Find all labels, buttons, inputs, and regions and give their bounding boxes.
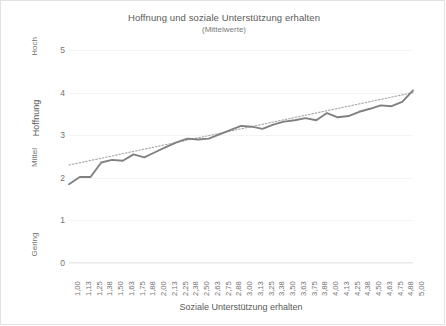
x-axis-tick: 1,63 — [127, 281, 136, 296]
x-axis-tick: 2,00 — [159, 281, 168, 296]
x-axis-tick: 1,38 — [105, 281, 114, 296]
chart-subtitle: (Mittelwerte) — [1, 24, 446, 36]
y-axis-tick: 4 — [49, 85, 65, 101]
page-title: Hoffnung und soziale Unterstützung erhal… — [1, 11, 446, 24]
x-axis-tick: 1,00 — [73, 281, 82, 296]
x-axis-tick: 3,25 — [267, 281, 276, 296]
x-axis-tick: 2,88 — [234, 281, 243, 296]
x-axis-tick-labels: 1,001,131,251,381,501,631,751,882,002,13… — [69, 264, 413, 300]
x-axis-tick: 3,13 — [256, 281, 265, 296]
x-axis-tick: 1,25 — [95, 281, 104, 296]
x-axis-tick: 5,00 — [417, 281, 426, 296]
plot-area — [69, 50, 413, 263]
y-axis-tick: 3 — [49, 127, 65, 143]
y-axis-tick-labels: 543210 — [49, 42, 65, 271]
y-axis-tick: 1 — [49, 212, 65, 228]
trendline-path — [69, 93, 413, 165]
y-axis-tick: 2 — [49, 170, 65, 186]
data-series-layer — [69, 50, 413, 263]
x-axis-tick: 2,38 — [191, 281, 200, 296]
x-axis-tick: 3,75 — [310, 281, 319, 296]
chart-frame: Hoffnung und soziale Unterstützung erhal… — [0, 0, 445, 325]
x-axis-tick: 4,75 — [396, 281, 405, 296]
x-axis-tick: 4,63 — [385, 281, 394, 296]
y-axis-tick: 0 — [49, 255, 65, 271]
x-axis-tick: 4,50 — [374, 281, 383, 296]
x-axis-tick: 1,75 — [138, 281, 147, 296]
x-axis-tick: 3,50 — [288, 281, 297, 296]
x-axis-tick: 2,63 — [213, 281, 222, 296]
x-axis-tick: 4,38 — [363, 281, 372, 296]
x-axis-tick: 4,00 — [331, 281, 340, 296]
data-series-path — [69, 90, 413, 184]
y-axis-category-mittel: Mittel — [30, 137, 39, 177]
x-axis-title: Soziale Unterstützung erhalten — [69, 302, 413, 312]
x-axis-tick: 1,88 — [148, 281, 157, 296]
y-axis-category-hoch: Hoch — [30, 27, 39, 67]
x-axis-tick: 4,88 — [406, 281, 415, 296]
x-axis-tick: 4,13 — [342, 281, 351, 296]
y-axis-category-gering: Gering — [30, 225, 39, 265]
x-axis-tick: 1,50 — [116, 281, 125, 296]
x-axis-tick: 3,63 — [299, 281, 308, 296]
x-axis-tick: 2,13 — [170, 281, 179, 296]
x-axis-tick: 2,25 — [181, 281, 190, 296]
x-axis-tick: 3,38 — [277, 281, 286, 296]
x-axis-tick: 3,00 — [245, 281, 254, 296]
chart-title-block: Hoffnung und soziale Unterstützung erhal… — [1, 11, 446, 36]
x-axis-tick: 2,50 — [202, 281, 211, 296]
x-axis-tick: 3,88 — [320, 281, 329, 296]
y-axis-tick: 5 — [49, 42, 65, 58]
x-axis-tick: 4,25 — [353, 281, 362, 296]
x-axis-tick: 1,13 — [84, 281, 93, 296]
x-axis-tick: 2,75 — [224, 281, 233, 296]
